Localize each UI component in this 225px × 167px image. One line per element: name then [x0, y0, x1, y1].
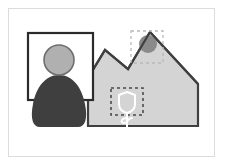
illustration-artwork	[0, 0, 225, 167]
person-head-shape	[44, 45, 74, 75]
illustration-canvas: Illustration: a person in a framed portr…	[0, 0, 225, 167]
